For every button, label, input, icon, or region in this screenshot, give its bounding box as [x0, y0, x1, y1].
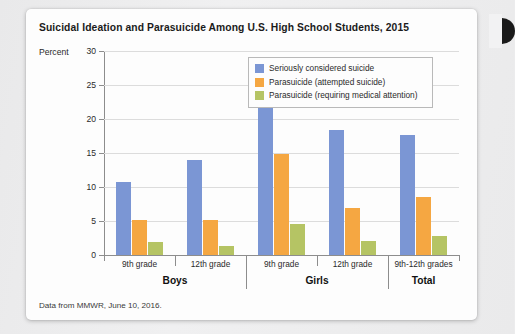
x-axis-group-label: Total — [412, 275, 436, 286]
x-axis-group-label: Girls — [305, 275, 328, 286]
bar — [274, 154, 289, 255]
bar — [148, 242, 163, 255]
bar — [219, 246, 234, 255]
y-axis-tick-label: 25 — [86, 80, 96, 90]
x-axis-subgroup-label: 9th grade — [264, 259, 299, 269]
chart-legend: Seriously considered suicide Parasuicide… — [248, 57, 433, 108]
legend-swatch-icon — [255, 64, 264, 73]
y-axis-tick-label: 10 — [86, 182, 96, 192]
y-axis-tick-label: 5 — [91, 216, 96, 226]
x-axis-minor-tick — [175, 255, 176, 266]
x-axis-end-tick — [459, 255, 460, 261]
y-axis-tick-label: 15 — [86, 148, 96, 158]
figure-card: Suicidal Ideation and Parasuicide Among … — [26, 9, 477, 320]
x-axis-end-tick — [104, 255, 105, 261]
legend-swatch-icon — [255, 78, 264, 87]
bar — [361, 241, 376, 255]
x-axis-subgroup-label: 9th-12th grades — [394, 259, 452, 269]
legend-label: Seriously considered suicide — [269, 63, 374, 74]
x-axis-subgroup-label: 12th grade — [333, 259, 373, 269]
bar — [132, 220, 147, 255]
bar — [116, 182, 131, 255]
legend-item: Parasuicide (attempted suicide) — [255, 77, 426, 88]
bar — [416, 197, 431, 255]
bar — [203, 220, 218, 255]
bar — [329, 130, 344, 255]
bar — [187, 160, 202, 255]
bar — [345, 208, 360, 255]
bar-group — [104, 51, 175, 255]
y-axis-title: Percent — [39, 47, 69, 57]
legend-swatch-icon — [255, 91, 264, 100]
x-axis-subgroup-label: 12th grade — [191, 259, 231, 269]
y-axis-tick-label: 30 — [86, 46, 96, 56]
chart-title: Suicidal Ideation and Parasuicide Among … — [39, 22, 409, 33]
x-axis-group-label: Boys — [163, 275, 188, 286]
y-axis-tick-label: 20 — [86, 114, 96, 124]
bar-group — [175, 51, 246, 255]
legend-label: Parasuicide (attempted suicide) — [269, 77, 385, 88]
x-axis-labels: 9th grade12th grade9th grade12th grade9t… — [104, 255, 459, 305]
x-axis-group-separator — [246, 255, 247, 289]
y-axis-tick-label: 0 — [91, 250, 96, 260]
x-axis-group-separator — [388, 255, 389, 289]
legend-label: Parasuicide (requiring medical attention… — [269, 90, 418, 101]
source-note: Data from MMWR, June 10, 2016. — [39, 301, 162, 310]
page-edge-mask — [489, 14, 502, 48]
bar — [400, 135, 415, 255]
legend-item: Parasuicide (requiring medical attention… — [255, 90, 426, 101]
bar — [432, 236, 447, 255]
x-axis-minor-tick — [317, 255, 318, 266]
bar — [290, 224, 305, 255]
legend-item: Seriously considered suicide — [255, 63, 426, 74]
x-axis-subgroup-label: 9th grade — [122, 259, 157, 269]
